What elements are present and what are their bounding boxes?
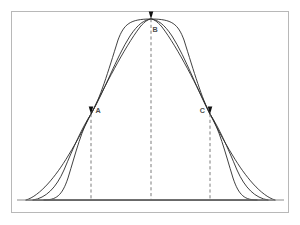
point-label-a: A	[96, 106, 101, 115]
curve-plot: A B C	[0, 0, 300, 225]
point-label-c: C	[200, 106, 205, 115]
figure-container: A B C	[0, 0, 300, 225]
point-label-b: B	[153, 25, 158, 34]
plot-background	[0, 0, 300, 225]
